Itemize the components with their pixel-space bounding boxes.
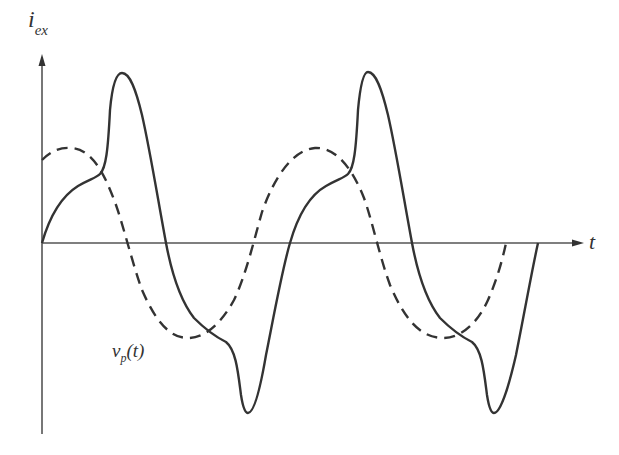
y-axis-label-subscript: ex bbox=[35, 22, 48, 38]
excitation-current-figure bbox=[0, 0, 619, 455]
y-axis-label-main: i bbox=[28, 6, 35, 32]
x-axis-arrow-icon bbox=[572, 240, 584, 247]
x-axis-label: t bbox=[589, 229, 595, 255]
y-axis bbox=[39, 54, 46, 434]
x-axis bbox=[42, 240, 584, 247]
vp-label-argument: (t) bbox=[126, 340, 144, 361]
dashed-curve-label: vp(t) bbox=[112, 340, 144, 366]
y-axis-arrow-icon bbox=[39, 54, 46, 66]
y-axis-label: iex bbox=[28, 6, 48, 37]
